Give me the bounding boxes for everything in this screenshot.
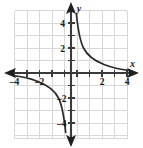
x-tick-label-pos4: 4 (125, 77, 130, 87)
coordinate-plane-chart: –4 –2 2 4 4 2 –2 –4 x y (0, 0, 143, 148)
x-axis-label: x (129, 58, 135, 69)
graph-figure: –4 –2 2 4 4 2 –2 –4 x y (0, 0, 143, 148)
x-tick-label-neg4: –4 (9, 77, 20, 87)
y-axis-label: y (76, 3, 82, 14)
x-tick-label-pos2: 2 (100, 77, 105, 87)
y-tick-label-neg4: –4 (56, 119, 67, 129)
x-tick-label-neg2: –2 (34, 77, 45, 87)
y-tick-label-pos2: 2 (60, 44, 65, 54)
y-tick-label-neg2: –2 (56, 94, 67, 104)
y-tick-label-pos4: 4 (60, 19, 65, 29)
